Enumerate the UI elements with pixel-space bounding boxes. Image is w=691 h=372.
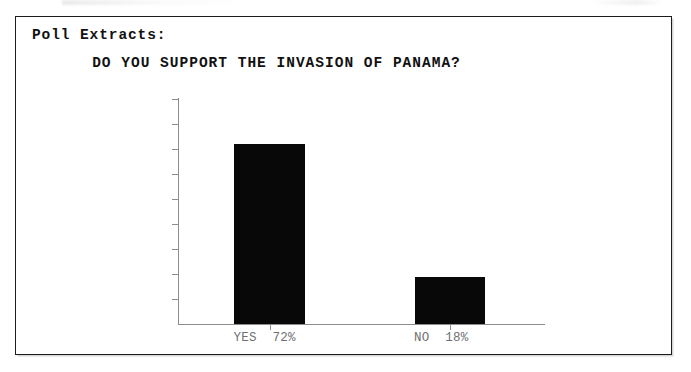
y-axis-tick-mark: [172, 99, 178, 100]
y-axis-tick-mark: [172, 149, 178, 150]
x-axis-tick-mark: [450, 325, 451, 330]
y-axis-tick-mark: [172, 174, 178, 175]
y-axis-tick-mark: [172, 274, 178, 275]
y-axis-tick-mark: [172, 249, 178, 250]
y-axis-line: [178, 98, 179, 325]
x-axis-tick-mark: [270, 325, 271, 330]
x-axis-tick-label: NO 18%: [0, 331, 691, 345]
bar-chart: 9080706050403020100 YES 72%NO 18%: [0, 0, 691, 372]
bar: [234, 144, 305, 324]
y-axis-tick-mark: [172, 124, 178, 125]
y-axis-tick-mark: [172, 299, 178, 300]
y-axis-tick-mark: [172, 199, 178, 200]
bar: [415, 277, 485, 325]
y-axis-tick-mark: [172, 224, 178, 225]
